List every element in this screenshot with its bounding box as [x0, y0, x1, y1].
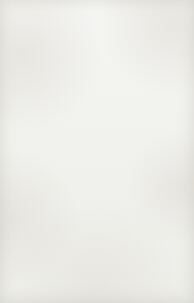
left-midleg-tibia-edge: [15, 87, 35, 100]
label-mandibles: Mandibles: [138, 10, 179, 19]
left-eye: [72, 27, 77, 31]
illustration-plate: Mandibles Head Abdomen Natural size Trac…: [0, 0, 194, 303]
mandibles-group: [76, 3, 93, 12]
left-hindleg-claw: [23, 131, 26, 137]
right-hindleg-femur-edge: [101, 92, 125, 110]
left-palp-basal: [58, 12, 70, 21]
left-gill-4: [42, 144, 68, 169]
label-tracheal-gills-line1: Tracheal: [13, 200, 44, 208]
metathorax: [66, 80, 101, 96]
left-foreleg: [9, 47, 68, 64]
label-abdomen: Abdomen: [138, 120, 176, 129]
mouthpart-marking: [78, 21, 91, 25]
abdominal-segment-7: [71, 175, 97, 186]
abdomen-group: [66, 96, 101, 222]
abdominal-segment-9: [74, 197, 94, 207]
abdominal-segment-8: [73, 186, 96, 197]
left-hindleg-tibia-edge: [27, 111, 43, 132]
left-maxillary-palp: [54, 10, 70, 34]
left-gill-5: [45, 156, 69, 182]
left-tracheal-gills: [38, 104, 75, 230]
prothorax: [67, 49, 100, 65]
label-head: Head: [138, 42, 160, 51]
right-eye: [91, 27, 96, 31]
label-tracheal-gills-line2: gills: [20, 210, 35, 218]
left-midleg-tibia: [14, 86, 35, 99]
left-foreleg-tarsus: [9, 47, 14, 48]
right-midleg-tibia: [133, 86, 154, 99]
right-gill-7: [96, 180, 114, 206]
right-hindleg-femur: [101, 90, 126, 108]
right-gill-9: [93, 202, 104, 230]
left-hindleg-femur: [41, 90, 66, 108]
mayfly-nymph-figure: Mandibles Head Abdomen Natural size Trac…: [0, 0, 194, 303]
left-midleg: [10, 74, 67, 105]
left-foreleg-claw: [9, 49, 14, 50]
natural-size-scale-bar: [154, 150, 161, 232]
right-midleg-tibia-edge: [132, 87, 152, 100]
right-gill-5: [99, 156, 123, 182]
abdominal-segment-4: [68, 137, 101, 150]
abdominal-segment-5: [69, 150, 100, 163]
left-hindleg: [23, 90, 67, 137]
tail-group: [75, 222, 92, 299]
abdominal-segment-3: [67, 124, 101, 137]
label-natural-size-line1: Natural: [161, 179, 189, 187]
mandible-tooth-right: [87, 3, 89, 7]
right-hindleg-claw: [142, 131, 145, 137]
left-gill-3: [39, 131, 67, 155]
label-natural-size-line2: size: [162, 187, 175, 195]
mesothorax: [67, 65, 101, 81]
left-gill-8: [59, 191, 73, 218]
left-hindleg-femur-edge: [43, 92, 67, 110]
head-group: [54, 3, 115, 49]
left-hindleg-tibia: [26, 109, 42, 131]
abdominal-segment-10: [77, 207, 91, 222]
label-tail: Tail: [106, 253, 121, 262]
abdominal-segment-6: [70, 163, 98, 175]
abdominal-segment-1: [66, 96, 101, 110]
right-midleg: [101, 74, 158, 105]
right-gill-8: [95, 191, 109, 218]
left-gill-9: [64, 202, 75, 230]
head-capsule: [70, 18, 98, 48]
right-gill-4: [100, 144, 126, 169]
right-tracheal-gills: [93, 104, 130, 230]
right-maxillary-palp: [98, 10, 114, 34]
thorax-group: [66, 49, 101, 96]
right-hindleg: [101, 90, 145, 137]
abdominal-segment-2: [66, 110, 101, 124]
right-gill-3: [101, 131, 129, 155]
left-gill-7: [54, 180, 72, 206]
